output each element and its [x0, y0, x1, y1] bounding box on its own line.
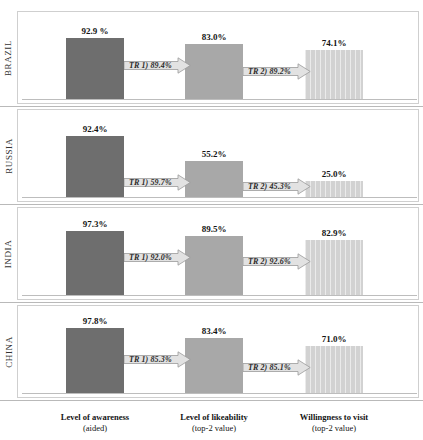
country-label-text: CHINA	[4, 336, 14, 368]
bar-fill	[185, 161, 243, 197]
country-panels: BRAZIL92.9 %83.0%74.1%TR 1) 89.4%TR 2) 8…	[0, 9, 423, 403]
category-label: Level of awareness(aided)	[40, 412, 150, 434]
country-label: RUSSIA	[0, 107, 17, 205]
transfer-rate-arrow: TR 1) 89.4%	[124, 57, 191, 74]
category-label-title: Level of awareness	[40, 412, 150, 423]
country-label: CHINA	[0, 303, 17, 401]
bar-value-label: 25.0%	[322, 169, 347, 179]
country-panel: INDIA97.3%89.5%82.9%TR 1) 92.0%TR 2) 92.…	[0, 205, 423, 303]
bar-value-label: 89.5%	[202, 224, 227, 234]
bar: 74.1%	[305, 50, 363, 99]
bar-value-label: 74.1%	[322, 38, 347, 48]
transfer-rate-label: TR 2) 45.3%	[243, 178, 311, 195]
transfer-rate-arrow: TR 2) 45.3%	[243, 178, 311, 195]
transfer-rate-label: TR 2) 89.2%	[243, 63, 311, 80]
baseline	[22, 295, 417, 296]
bar: 83.0%	[185, 44, 243, 99]
bar: 82.9%	[305, 240, 363, 295]
country-label-text: RUSSIA	[4, 138, 14, 174]
bar-fill	[305, 346, 363, 393]
transfer-rate-arrow: TR 2) 85.1%	[243, 359, 311, 376]
bar-fill	[66, 328, 124, 393]
transfer-rate-label: TR 1) 59.7%	[124, 174, 191, 191]
bar: 55.2%	[185, 161, 243, 197]
transfer-rate-arrow: TR 2) 92.6%	[243, 253, 311, 270]
bar: 97.3%	[66, 231, 124, 295]
country-panel: RUSSIA92.4%55.2%25.0%TR 1) 59.7%TR 2) 45…	[0, 107, 423, 205]
category-legend: Level of awareness(aided)Level of likeab…	[0, 403, 423, 440]
bar-value-label: 97.3%	[83, 219, 108, 229]
bar-value-label: 55.2%	[202, 149, 227, 159]
bar-fill	[305, 50, 363, 99]
category-label-subtitle: (top-2 value)	[279, 423, 389, 434]
bar-value-label: 92.4%	[83, 124, 108, 134]
transfer-rate-arrow: TR 1) 92.0%	[124, 249, 191, 266]
transfer-rate-arrow: TR 1) 85.3%	[124, 351, 191, 368]
category-label-title: Willingness to visit	[279, 412, 389, 423]
bar: 25.0%	[305, 181, 363, 198]
transfer-rate-arrow: TR 1) 59.7%	[124, 174, 191, 191]
country-panel: BRAZIL92.9 %83.0%74.1%TR 1) 89.4%TR 2) 8…	[0, 9, 423, 107]
category-label-subtitle: (top-2 value)	[159, 423, 269, 434]
country-label: BRAZIL	[0, 9, 17, 107]
bar-fill	[66, 136, 124, 197]
bar-value-label: 92.9 %	[82, 26, 109, 36]
funnel-chart: BRAZIL92.9 %83.0%74.1%TR 1) 89.4%TR 2) 8…	[0, 0, 423, 440]
baseline	[22, 393, 417, 394]
category-label: Level of likeability(top-2 value)	[159, 412, 269, 434]
bar: 89.5%	[185, 236, 243, 295]
transfer-rate-label: TR 2) 85.1%	[243, 359, 311, 376]
category-label-title: Level of likeability	[159, 412, 269, 423]
baseline	[22, 99, 417, 100]
bar-value-label: 83.0%	[202, 32, 227, 42]
bar-fill	[66, 231, 124, 295]
bar: 92.9 %	[66, 38, 124, 99]
country-label: INDIA	[0, 205, 17, 303]
bar: 92.4%	[66, 136, 124, 197]
country-label-text: INDIA	[4, 240, 14, 269]
bar-fill	[66, 38, 124, 99]
transfer-rate-label: TR 2) 92.6%	[243, 253, 311, 270]
bar-value-label: 82.9%	[322, 228, 347, 238]
transfer-rate-arrow: TR 2) 89.2%	[243, 63, 311, 80]
bar-fill	[305, 240, 363, 295]
transfer-rate-label: TR 1) 92.0%	[124, 249, 191, 266]
bar-fill	[185, 44, 243, 99]
bar-fill	[185, 338, 243, 393]
bar-value-label: 83.4%	[202, 326, 227, 336]
category-label-subtitle: (aided)	[40, 423, 150, 434]
bar-value-label: 71.0%	[322, 334, 347, 344]
transfer-rate-label: TR 1) 85.3%	[124, 351, 191, 368]
bar-value-label: 97.8%	[83, 316, 108, 326]
bar: 97.8%	[66, 328, 124, 393]
category-label: Willingness to visit(top-2 value)	[279, 412, 389, 434]
bar-fill	[305, 181, 363, 198]
bar: 71.0%	[305, 346, 363, 393]
clipped-header-strip	[0, 0, 423, 9]
baseline	[22, 197, 417, 198]
country-panel: CHINA97.8%83.4%71.0%TR 1) 85.3%TR 2) 85.…	[0, 303, 423, 401]
transfer-rate-label: TR 1) 89.4%	[124, 57, 191, 74]
country-label-text: BRAZIL	[4, 40, 14, 76]
bar: 83.4%	[185, 338, 243, 393]
bar-fill	[185, 236, 243, 295]
